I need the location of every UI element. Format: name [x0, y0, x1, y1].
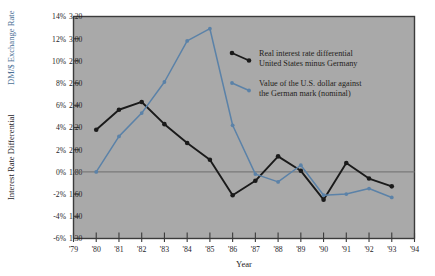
legend-marker-dot-end	[247, 89, 251, 93]
legend-label-line-1: Value of the U.S. dollar against	[259, 79, 362, 88]
data-point-marker	[117, 134, 121, 138]
y-tick-label-exchange-rate: 2.80	[69, 57, 82, 66]
x-tick-label: '87	[251, 245, 260, 254]
data-point-marker	[321, 197, 326, 202]
x-axis-title: Year	[236, 259, 252, 269]
y-tick-label-percent: 10%	[52, 57, 67, 66]
x-tick-label: '85	[205, 245, 214, 254]
y-tick-label-percent: 6%	[56, 101, 67, 110]
data-point-marker	[344, 192, 348, 196]
data-point-marker	[139, 100, 144, 105]
data-point-marker	[390, 196, 394, 200]
data-point-marker	[389, 184, 394, 189]
legend-marker-dot-end	[247, 58, 252, 63]
x-tick-label: '80	[92, 245, 101, 254]
y-tick-label-exchange-rate: 1.40	[69, 212, 82, 221]
x-tick-label: '79	[69, 245, 78, 254]
y-tick-label-percent: 4%	[56, 123, 67, 132]
x-tick-label: '86	[228, 245, 237, 254]
data-point-marker	[367, 176, 372, 181]
x-tick-label: '93	[387, 245, 396, 254]
x-tick-label: '83	[160, 245, 169, 254]
data-point-marker	[231, 123, 235, 127]
y-tick-label-percent: -2%	[53, 190, 66, 199]
plot-background	[74, 17, 415, 239]
data-point-marker	[344, 161, 349, 166]
data-point-marker	[94, 127, 99, 132]
y-tick-label-exchange-rate: 1.30	[69, 234, 82, 243]
data-point-marker	[276, 154, 281, 159]
data-point-marker	[208, 27, 212, 31]
y-tick-label-percent: 2%	[56, 146, 67, 155]
x-tick-label: '81	[114, 245, 123, 254]
legend-marker-dot-start	[230, 51, 235, 56]
x-tick-label: '84	[183, 245, 192, 254]
data-point-marker	[253, 172, 257, 176]
data-point-marker	[117, 107, 122, 112]
data-point-marker	[185, 39, 189, 43]
legend-marker-dot-start	[230, 81, 234, 85]
y-axis-title-exchange-rate: DM/$ Exchange Rate	[6, 10, 16, 85]
data-point-marker	[162, 122, 167, 127]
legend-label-line-2: United States minus Germany	[259, 59, 358, 68]
data-point-marker	[163, 80, 167, 84]
y-tick-label-percent: 12%	[52, 35, 67, 44]
data-point-marker	[230, 193, 235, 198]
y-tick-label-percent: 0%	[56, 168, 67, 177]
y-tick-label-percent: 14%	[52, 12, 67, 21]
x-tick-label: '82	[137, 245, 146, 254]
y-tick-label-exchange-rate: 3.20	[69, 12, 82, 21]
chart-container: 14%3.2012%3.0010%2.808%2.606%2.404%2.202…	[0, 0, 435, 276]
data-point-marker	[276, 180, 280, 184]
data-point-marker	[322, 193, 326, 197]
data-point-marker	[94, 170, 98, 174]
x-tick-label: '91	[342, 245, 351, 254]
legend-label-line-1: Real interest rate differential	[259, 49, 353, 58]
y-axis-title-interest-rate: Interest Rate Differential	[6, 114, 16, 200]
x-tick-label: '89	[296, 245, 305, 254]
y-tick-label-exchange-rate: 2.20	[69, 123, 82, 132]
legend-label-line-2: the German mark (nominal)	[259, 89, 351, 98]
data-point-marker	[185, 141, 190, 146]
y-tick-label-percent: -6%	[53, 234, 66, 243]
y-tick-label-exchange-rate: 2.60	[69, 79, 82, 88]
y-tick-label-exchange-rate: 3.00	[69, 35, 82, 44]
y-tick-label-exchange-rate: 1.60	[69, 190, 82, 199]
data-point-marker	[208, 157, 213, 162]
data-point-marker	[253, 178, 258, 183]
x-tick-label: '88	[273, 245, 282, 254]
y-tick-label-percent: 8%	[56, 79, 67, 88]
exchange-rate-interest-differential-chart: 14%3.2012%3.0010%2.808%2.606%2.404%2.202…	[0, 0, 435, 276]
y-tick-label-percent: -4%	[53, 212, 66, 221]
x-tick-label: '90	[319, 245, 328, 254]
data-point-marker	[299, 168, 304, 173]
plot-area	[74, 17, 415, 239]
data-point-marker	[367, 187, 371, 191]
y-tick-label-exchange-rate: 2.00	[69, 146, 82, 155]
x-tick-label: '94	[410, 245, 419, 254]
data-point-marker	[140, 111, 144, 115]
y-tick-label-exchange-rate: 2.40	[69, 101, 82, 110]
data-point-marker	[299, 163, 303, 167]
x-tick-label: '92	[364, 245, 373, 254]
